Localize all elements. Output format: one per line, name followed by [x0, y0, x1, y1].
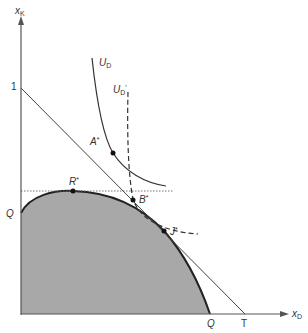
point-b-star-label: B* [139, 194, 148, 205]
point-r-star [71, 189, 76, 194]
y-axis-arrow-icon [18, 16, 24, 25]
y-intercept-one-label: 1 [11, 82, 17, 92]
x-axis-label: xD [292, 309, 302, 320]
diagram-canvas [0, 0, 308, 333]
ppf-x-intercept-q-label: Q [207, 319, 215, 329]
point-b-star [131, 198, 136, 203]
x-intercept-t-label: T [241, 319, 247, 329]
ppf-y-intercept-q-label: Q [6, 209, 14, 219]
point-a-star [111, 151, 116, 156]
ud-prime-curve-label: UD′ [113, 84, 127, 96]
point-r-star-label: R* [69, 176, 79, 187]
point-j-star-label: J* [170, 226, 178, 237]
y-axis-label: xK [15, 6, 25, 17]
ud-curve-label: UD [99, 58, 111, 69]
x-axis-arrow-icon [280, 311, 289, 317]
point-j-star [162, 229, 167, 234]
point-a-star-label: A* [90, 136, 99, 147]
